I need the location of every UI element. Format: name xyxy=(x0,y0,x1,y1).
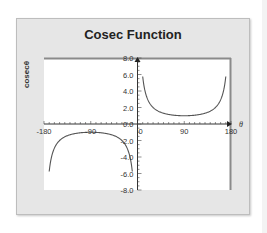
y-tick-label: 2.0 xyxy=(123,104,133,113)
x-tick-label: 90 xyxy=(180,127,188,136)
x-axis-label: θ xyxy=(239,120,243,129)
plot-svg: 8.06.04.02.00.0-2.0-4.0-6.0-8.0-180-9009… xyxy=(0,0,267,233)
y-tick-label: 8.0 xyxy=(123,54,133,63)
y-tick-label: 0.0 xyxy=(123,120,133,129)
x-tick-label: 0 xyxy=(138,127,142,136)
x-tick-label: 180 xyxy=(225,127,238,136)
y-tick-label: 6.0 xyxy=(123,71,133,80)
y-tick-label: -8.0 xyxy=(121,186,134,195)
y-tick-label: -4.0 xyxy=(121,153,134,162)
y-tick-label: -6.0 xyxy=(121,170,134,179)
x-tick-label: -90 xyxy=(85,127,96,136)
x-tick-label: -180 xyxy=(36,127,51,136)
y-tick-label: 4.0 xyxy=(123,87,133,96)
y-tick-label: -2.0 xyxy=(121,137,134,146)
